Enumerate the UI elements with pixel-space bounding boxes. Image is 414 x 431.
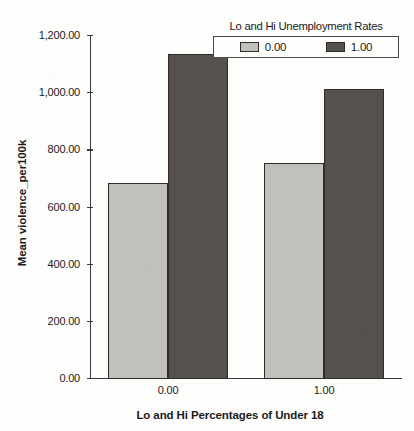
y-tick: 200.00 <box>0 315 88 329</box>
legend-entry[interactable]: 1.00 <box>326 41 373 53</box>
legend-title: Lo and Hi Unemployment Rates <box>213 20 399 32</box>
bar <box>324 89 384 379</box>
plot-area <box>90 36 402 379</box>
x-tick-label: 1.00 <box>284 384 364 396</box>
y-tick-label: 1,200.00 <box>39 29 80 41</box>
x-axis-title: Lo and Hi Percentages of Under 18 <box>60 409 400 421</box>
bar <box>108 183 168 379</box>
legend-swatch <box>240 42 259 52</box>
y-tick: 1,000.00 <box>0 86 88 100</box>
y-tick: 800.00 <box>0 143 88 157</box>
bar <box>168 54 228 379</box>
bar-chart: Mean violence_per100k 0.00200.00400.0060… <box>0 0 414 431</box>
legend-swatch <box>326 42 345 52</box>
legend-box: 0.001.00 <box>213 36 399 58</box>
bar <box>264 163 324 379</box>
y-tick: 400.00 <box>0 258 88 272</box>
y-tick-label: 600.00 <box>48 201 80 213</box>
legend: Lo and Hi Unemployment Rates 0.001.00 <box>213 20 399 58</box>
y-tick-label: 400.00 <box>48 258 80 270</box>
y-tick: 1,200.00 <box>0 29 88 43</box>
legend-label: 0.00 <box>265 41 287 53</box>
y-tick-label: 0.00 <box>59 372 80 384</box>
legend-label: 1.00 <box>351 41 373 53</box>
y-tick-label: 800.00 <box>48 143 80 155</box>
legend-entry[interactable]: 0.00 <box>240 41 287 53</box>
y-tick-label: 200.00 <box>48 315 80 327</box>
y-tick-label: 1,000.00 <box>39 86 80 98</box>
x-tick-label: 0.00 <box>128 384 208 396</box>
y-tick: 0.00 <box>0 372 88 386</box>
y-tick: 600.00 <box>0 201 88 215</box>
